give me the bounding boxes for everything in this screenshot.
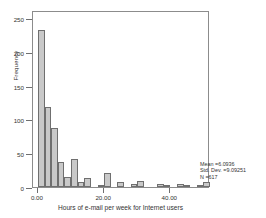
x-tick-mark (37, 188, 38, 193)
plot-area (32, 11, 209, 188)
histogram-bar (71, 159, 78, 187)
histogram-bar (137, 181, 144, 187)
histogram-bar (98, 185, 105, 187)
y-tick-mark (26, 87, 32, 88)
statistics-annotation: Mean =6.0936 Std. Dev. =9.09251 N =617 (200, 161, 246, 180)
histogram-bar (203, 182, 210, 187)
x-axis-title: Hours of e-mail per week for Internet us… (32, 204, 209, 211)
y-tick-label: 150 (0, 83, 24, 90)
histogram-bar (164, 185, 171, 187)
histogram-bar (64, 177, 71, 187)
histogram-bar (177, 184, 184, 187)
histogram-bar (104, 173, 111, 187)
x-tick-label: 40.00 (162, 194, 177, 201)
histogram-bar (78, 182, 85, 187)
bars-layer (33, 12, 208, 187)
x-tick-label: 20.00 (95, 194, 110, 201)
y-tick-label: 100 (0, 117, 24, 124)
histogram-bar (38, 30, 45, 187)
y-tick-mark (26, 188, 32, 189)
x-tick-mark (169, 188, 170, 193)
stddev-value: Std. Dev. =9.09251 (200, 167, 246, 173)
y-tick-label: 0 (0, 185, 24, 192)
histogram-bar (84, 178, 91, 187)
histogram-bar (45, 107, 52, 187)
histogram-bar (184, 185, 191, 187)
y-axis-title: Frequency (12, 21, 19, 111)
n-value: N =617 (200, 174, 246, 180)
histogram-bar (197, 185, 204, 187)
y-tick-label: 50 (0, 151, 24, 158)
histogram-bar (51, 128, 58, 187)
histogram-bar (131, 184, 138, 187)
y-tick-mark (26, 53, 32, 54)
y-tick-mark (26, 120, 32, 121)
histogram-figure: Frequency 050100150200250 0.0020.0040.00… (0, 0, 266, 218)
y-tick-mark (26, 154, 32, 155)
x-tick-mark (103, 188, 104, 193)
histogram-bar (117, 182, 124, 187)
y-tick-label: 250 (0, 16, 24, 23)
histogram-bar (157, 184, 164, 187)
y-tick-mark (26, 19, 32, 20)
y-tick-label: 200 (0, 49, 24, 56)
x-tick-label: 0.00 (31, 194, 43, 201)
histogram-bar (58, 162, 65, 187)
